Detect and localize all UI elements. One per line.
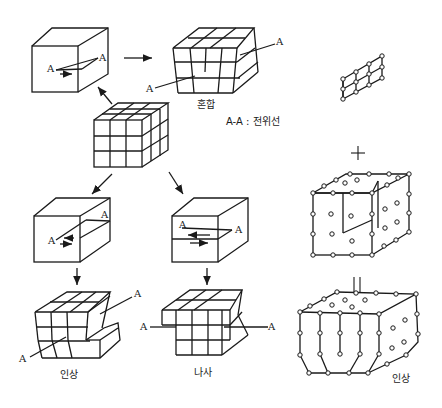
caption-edge: 인상 bbox=[60, 370, 78, 380]
host-crystal bbox=[313, 174, 409, 255]
mixed-lattice-cube bbox=[155, 28, 275, 93]
caption-edge-right: 인상 bbox=[392, 374, 410, 384]
label-a: A bbox=[48, 236, 55, 246]
label-a: A bbox=[179, 220, 186, 230]
label-a: A bbox=[101, 210, 108, 220]
label-a: A bbox=[140, 322, 147, 332]
label-a: A bbox=[134, 289, 141, 299]
screw-lattice-cube bbox=[150, 290, 268, 355]
legend-dislocation-line: A-A : 전위선 bbox=[226, 117, 280, 127]
label-a: A bbox=[268, 322, 275, 332]
label-a: A bbox=[47, 64, 54, 74]
label-a: A bbox=[19, 354, 26, 364]
label-a: A bbox=[146, 84, 153, 94]
mixed-schematic-block bbox=[32, 28, 108, 92]
caption-mixed: 혼합 bbox=[197, 100, 215, 110]
edge-lattice-cube bbox=[30, 292, 132, 358]
atom-nodes bbox=[298, 54, 420, 375]
perfect-lattice-cube bbox=[94, 103, 168, 167]
label-a: A bbox=[235, 225, 242, 235]
extra-half-plane bbox=[343, 56, 382, 99]
label-a: A bbox=[99, 53, 106, 63]
edge-schematic-block bbox=[34, 198, 110, 262]
dislocation-diagram bbox=[0, 0, 442, 408]
caption-screw: 나사 bbox=[194, 368, 212, 378]
label-a: A bbox=[276, 37, 283, 47]
